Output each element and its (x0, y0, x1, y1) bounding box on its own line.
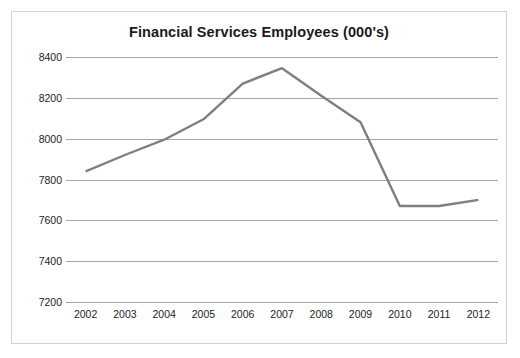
y-tick-label: 8200 (16, 92, 62, 104)
y-tick-label: 7200 (16, 296, 62, 308)
series-line-financial-services-employees (66, 57, 498, 302)
y-tick-label: 7800 (16, 174, 62, 186)
x-axis: 2002200320042005200620072008200920102011… (66, 308, 498, 328)
chart-title: Financial Services Employees (000's) (12, 24, 506, 40)
x-tick-label: 2012 (455, 308, 501, 320)
chart-container: Financial Services Employees (000's) 720… (11, 11, 507, 344)
y-tick-label: 7600 (16, 214, 62, 226)
gridline (66, 302, 498, 303)
y-tick-label: 8400 (16, 51, 62, 63)
plot-area (66, 57, 498, 302)
y-tick-label: 7400 (16, 255, 62, 267)
y-axis: 7200740076007800800082008400 (12, 57, 62, 302)
y-tick-label: 8000 (16, 133, 62, 145)
